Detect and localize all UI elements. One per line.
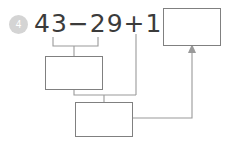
total-step-box[interactable] (75, 102, 133, 137)
connector-subtract-to-total (74, 90, 136, 95)
final-answer-box[interactable] (163, 8, 221, 46)
worksheet-problem-canvas: 4 43−29+19= (0, 0, 234, 147)
problem-number-badge: 4 (9, 15, 28, 34)
subtraction-step-box[interactable] (45, 56, 103, 90)
connector-nineteen-down (104, 34, 136, 102)
arrow-to-final-answer (133, 44, 196, 118)
bracket-under-43-minus-29 (53, 37, 98, 56)
